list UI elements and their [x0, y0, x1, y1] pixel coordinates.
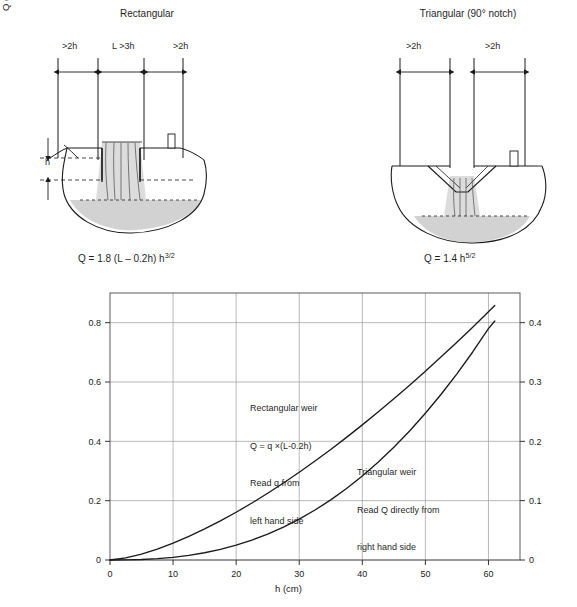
annotation-line: right hand side — [357, 541, 440, 554]
chart-tick-label: 0.2 — [529, 437, 542, 447]
y-axis-right-title: Q (m3/s) Triangular weir only — [0, 0, 11, 11]
chart-tick-label: 0.4 — [88, 437, 101, 447]
rectangular-weir-annotation: Rectangular weir Q = q ×(L-0.2h) Read q … — [250, 377, 318, 552]
chart-tick-label: 0.8 — [88, 318, 101, 328]
annotation-line: Read q from — [250, 477, 318, 490]
triangular-weir-annotation: Triangular weir Read Q directly from rig… — [357, 441, 440, 579]
chart-tick-label: 0 — [107, 569, 112, 579]
chart-tick-label: 60 — [483, 569, 493, 579]
annotation-line: Read Q directly from — [357, 504, 440, 517]
chart-tick-label: 0 — [96, 555, 101, 565]
annotation-line: Q = q ×(L-0.2h) — [250, 440, 318, 453]
chart-tick-label: 0.6 — [88, 377, 101, 387]
chart-tick-label: 30 — [294, 569, 304, 579]
chart-tick-label: 0.3 — [529, 377, 542, 387]
annotation-line: Triangular weir — [357, 466, 440, 479]
x-axis-title: h (cm) — [275, 583, 302, 595]
annotation-line: left hand side — [250, 515, 318, 528]
chart-tick-label: 0.2 — [88, 496, 101, 506]
chart-tick-label: 0.4 — [529, 318, 542, 328]
chart-tick-label: 0 — [529, 555, 534, 565]
chart-tick-label: 20 — [231, 569, 241, 579]
annotation-line: Rectangular weir — [250, 402, 318, 415]
chart-tick-label: 10 — [168, 569, 178, 579]
chart-tick-label: 0.1 — [529, 496, 542, 506]
figure-root: Rectangular >2h L >3h >2h h — [0, 0, 577, 607]
